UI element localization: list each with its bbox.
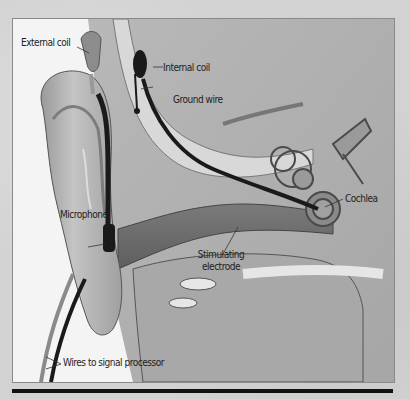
label-cochlea: Cochlea (345, 193, 378, 205)
external-coil-shape (81, 32, 101, 72)
label-internal-coil: Internal coil (163, 62, 210, 74)
label-stimulating-electrode-line2: electrode (196, 261, 245, 273)
internal-coil-shape (133, 50, 147, 78)
bottom-rule (12, 389, 393, 393)
microphone-shape (103, 224, 115, 252)
label-microphone: Microphone (60, 209, 108, 221)
label-external-coil: External coil (21, 37, 70, 49)
label-wires-to-signal-processor: Wires to signal processor (63, 357, 164, 369)
cochlear-implant-diagram: External coil Internal coil Ground wire … (12, 18, 395, 383)
label-ground-wire: Ground wire (173, 94, 223, 106)
